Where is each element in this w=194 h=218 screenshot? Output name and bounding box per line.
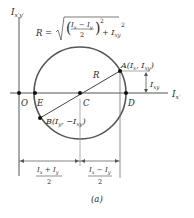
label-o: O [21,98,28,108]
svg-text:+ Ixy: + Ixy [102,28,122,39]
horizontal-axis-label: Ix′ [171,89,181,100]
point-c [78,91,82,95]
label-a: A(Ix, Ixy) [120,61,154,72]
point-b [38,116,42,120]
radius-formula: R = ( Ix − Iy 2 ) 2 + Ixy 2 [35,17,125,40]
svg-text:2: 2 [98,178,102,186]
point-d [124,91,128,95]
vertical-axis-label: Ix′y′ [10,7,25,19]
mohr-circle-diagram: Ix′y′ Ix′ R = ( Ix − Iy 2 ) 2 + Ixy 2 O … [0,0,194,218]
label-ixy: Ixy [149,80,160,91]
svg-text:R =: R = [35,28,52,38]
svg-text:2: 2 [47,178,51,186]
point-e [33,91,37,95]
figure-caption: (a) [91,194,103,204]
label-c: C [83,98,90,108]
svg-text:2: 2 [121,21,125,28]
svg-text:Ix − Iy: Ix − Iy [88,166,111,176]
label-e: E [36,98,44,108]
svg-text:2: 2 [100,17,104,24]
svg-text:2: 2 [80,31,84,39]
point-o [17,91,21,95]
label-r: R [92,70,100,80]
svg-text:Ix + Iy: Ix + Iy [36,166,59,176]
dim-left-label: Ix + Iy 2 [36,166,62,186]
dim-right-label: Ix − Iy 2 [88,166,112,186]
label-b: B(Iy, −Ixy) [45,117,86,128]
label-d: D [127,98,135,108]
